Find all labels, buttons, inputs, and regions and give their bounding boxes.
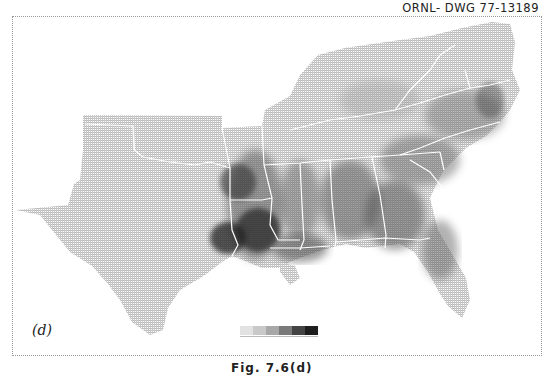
legend-swatch-3 — [266, 326, 279, 335]
panel-label: (d) — [32, 322, 52, 338]
louisiana-coast — [280, 262, 300, 285]
figure-caption: Fig. 7.6(d) — [231, 361, 312, 375]
legend-swatch-6 — [305, 326, 318, 335]
density-shading — [210, 80, 505, 280]
legend-scale — [240, 326, 318, 337]
legend-swatch-1 — [240, 326, 253, 335]
legend-swatch-2 — [253, 326, 266, 335]
legend-swatch-4 — [279, 326, 292, 335]
legend-swatch-5 — [292, 326, 305, 335]
